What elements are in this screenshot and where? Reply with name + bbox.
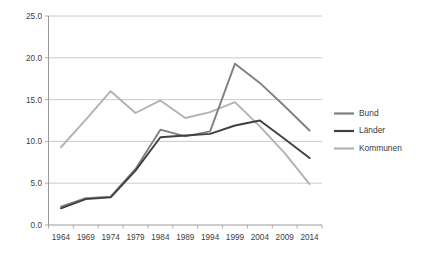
x-axis-tick-label: 1974 [102, 233, 121, 242]
series-line-l-nder [61, 121, 310, 209]
x-axis-tick-label: 1969 [77, 233, 96, 242]
y-axis-tick-labels: 0.05.010.015.020.025.0 [26, 12, 42, 230]
y-axis-tick-label: 15.0 [26, 96, 42, 105]
x-axis-tick-label: 2004 [251, 233, 270, 242]
data-series [61, 64, 310, 209]
chart-legend: BundLänderKommunen [334, 108, 402, 153]
x-axis-tick-label: 1999 [226, 233, 245, 242]
x-axis-tick-label: 2009 [276, 233, 295, 242]
x-axis-tick-label: 1979 [126, 233, 145, 242]
chart-canvas: 0.05.010.015.020.025.0 19641969197419791… [0, 0, 421, 260]
legend-label-l-nder: Länder [359, 125, 385, 135]
legend-label-kommunen: Kommunen [359, 143, 402, 153]
gridlines [49, 16, 323, 225]
x-axis-tick-label: 1994 [201, 233, 220, 242]
x-axis-tick-labels: 1964196919741979198419891994199920042009… [52, 233, 319, 242]
y-axis-tick-label: 25.0 [26, 12, 42, 21]
x-axis-tick-label: 1989 [176, 233, 195, 242]
axis-tick-marks [45, 16, 322, 229]
x-axis-tick-label: 1984 [151, 233, 170, 242]
x-axis-tick-label: 1964 [52, 233, 71, 242]
line-chart: 0.05.010.015.020.025.0 19641969197419791… [0, 0, 421, 260]
y-axis-tick-label: 5.0 [31, 179, 43, 188]
y-axis-tick-label: 0.0 [31, 221, 43, 230]
legend-label-bund: Bund [359, 108, 379, 118]
x-axis-tick-label: 2014 [300, 233, 319, 242]
y-axis-tick-label: 20.0 [26, 54, 42, 63]
series-line-kommunen [61, 91, 310, 184]
y-axis-tick-label: 10.0 [26, 137, 42, 146]
